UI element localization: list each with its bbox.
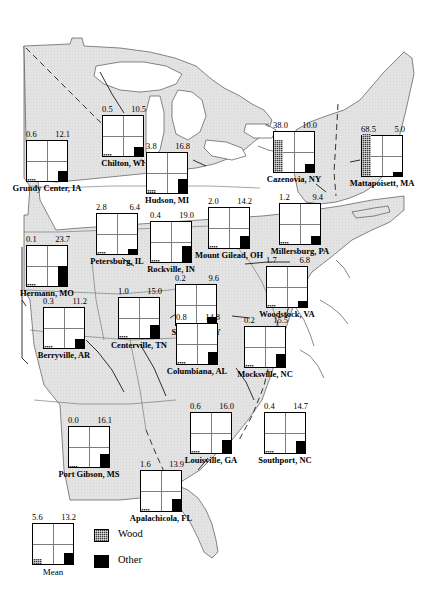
site-wood-value: 1.2 — [279, 192, 290, 202]
site-other-bar — [134, 147, 143, 156]
site-panel: 0.123.7Hermann, MO — [26, 245, 68, 287]
site-wood-bar — [280, 242, 289, 244]
site-plot: <38.010.0 — [273, 131, 315, 173]
site-other-value: 6.8 — [299, 255, 310, 265]
site-caption: Chilton, WI — [101, 158, 144, 168]
site-other-bar — [296, 441, 305, 453]
site-values: 0.616.0 — [191, 401, 233, 413]
site-panel: 0.616.0Louisville, GA — [190, 412, 232, 454]
plot-midline-vertical — [171, 222, 172, 262]
site-other-value: 13.9 — [169, 459, 184, 469]
site-plot: 1.015.0 — [118, 297, 160, 339]
site-values: 0.510.5 — [103, 104, 145, 116]
site-plot: 2.86.4 — [96, 213, 138, 255]
site-other-bar — [208, 352, 217, 364]
site-other-value: 5.0 — [394, 124, 405, 134]
site-plot: 1.613.9 — [140, 470, 182, 512]
site-wood-value: 0.0 — [68, 415, 79, 425]
site-other-bar — [276, 354, 285, 367]
plot-midline-vertical — [229, 208, 230, 248]
site-caption: Columbiana, AL — [167, 366, 227, 376]
site-wood-bar — [267, 305, 276, 307]
plot-midline-vertical — [53, 524, 54, 564]
site-other-bar — [172, 499, 181, 511]
site-wood-bar — [265, 451, 274, 453]
site-plot: 1.76.8 — [266, 266, 308, 308]
site-other-bar — [393, 172, 402, 176]
site-wood-value: 0.4 — [264, 401, 275, 411]
site-plot: 0.612.1 — [26, 140, 68, 182]
site-wood-value: 68.5 — [361, 124, 376, 134]
site-values: 0.29.6 — [176, 273, 218, 285]
site-plot: 0.419.0 — [150, 221, 192, 263]
plot-midline-vertical — [117, 214, 118, 254]
site-wood-bar — [141, 509, 150, 511]
site-plot: 1.29.4 — [279, 203, 321, 245]
less-than-symbol: < — [265, 120, 270, 130]
site-caption: Louisville, GA — [185, 455, 237, 465]
site-other-bar — [311, 236, 320, 244]
legend-mean-other-value: 13.2 — [61, 512, 76, 522]
site-wood-bar — [147, 190, 156, 193]
site-wood-bar — [209, 246, 218, 248]
site-plot: 0.311.2 — [43, 307, 85, 349]
plot-midline-vertical — [139, 298, 140, 338]
site-values: 0.311.2 — [44, 296, 86, 308]
site-plot: 0.215.5 — [244, 326, 286, 368]
site-plot: 2.014.2 — [208, 207, 250, 249]
site-wood-bar — [191, 451, 200, 453]
site-wood-value: 0.5 — [102, 104, 113, 114]
site-panel: 2.86.4Petersburg, IL — [96, 213, 138, 255]
legend-mean-label: Mean — [43, 567, 64, 577]
site-caption: Petersburg, IL — [90, 256, 143, 266]
site-values: 0.414.7 — [265, 401, 307, 413]
site-caption: Mount Gilead, OH — [195, 250, 263, 260]
site-other-value: 15.5 — [273, 315, 288, 325]
site-panel: 0.612.1Grundy Center, IA — [26, 140, 68, 182]
other-swatch-icon — [94, 555, 109, 568]
site-values: 2.014.2 — [209, 196, 251, 208]
site-wood-bar — [119, 336, 128, 338]
site-panel: 2.014.2Mount Gilead, OH — [208, 207, 250, 249]
site-other-bar — [240, 236, 249, 248]
site-other-bar — [128, 249, 137, 254]
site-wood-value: 0.2 — [244, 315, 255, 325]
site-values: 0.419.0 — [151, 210, 193, 222]
site-wood-value: 0.4 — [150, 210, 161, 220]
plot-midline-vertical — [47, 141, 48, 181]
site-plot: 0.016.1 — [68, 426, 110, 468]
plot-midline-vertical — [197, 324, 198, 364]
site-panel: 0.016.1Port Gibson, MS — [68, 426, 110, 468]
site-wood-bar — [69, 466, 78, 468]
map-chart-figure: 0.612.1Grundy Center, IA0.510.5Chilton, … — [0, 0, 430, 607]
site-wood-bar — [103, 154, 112, 156]
site-other-value: 15.0 — [147, 286, 162, 296]
site-panel: 1.613.9Apalachicola, FL — [140, 470, 182, 512]
site-panel: 0.414.7Southport, NC — [264, 412, 306, 454]
plot-midline-vertical — [285, 413, 286, 453]
site-other-bar — [150, 325, 159, 338]
site-panel: <38.010.0Cazenovia, NY — [273, 131, 315, 173]
site-wood-value: 1.6 — [140, 459, 151, 469]
plot-midline-vertical — [287, 267, 288, 307]
site-values: 0.215.5 — [245, 315, 287, 327]
site-other-bar — [58, 171, 67, 181]
site-panel: 0.814.8Columbiana, AL — [176, 323, 218, 365]
site-wood-value: 0.1 — [26, 234, 37, 244]
site-caption: Hudson, MI — [145, 195, 189, 205]
site-wood-value: 38.0 — [273, 120, 288, 130]
plot-midline-vertical — [265, 327, 266, 367]
plot-midline-vertical — [300, 204, 301, 244]
plot-midline-vertical — [382, 136, 383, 176]
site-wood-value: 1.7 — [266, 255, 277, 265]
plot-midline-vertical — [89, 427, 90, 467]
site-other-value: 12.1 — [55, 129, 70, 139]
site-plot: 3.816.8 — [146, 152, 188, 194]
site-other-bar — [298, 301, 307, 307]
site-wood-value: 2.0 — [208, 196, 219, 206]
site-panel: 0.215.5Mocksville, NC — [244, 326, 286, 368]
site-other-value: 6.4 — [129, 202, 140, 212]
site-caption: Southport, NC — [258, 455, 311, 465]
site-caption: Cazenovia, NY — [267, 174, 321, 184]
site-plot: 0.123.7 — [26, 245, 68, 287]
